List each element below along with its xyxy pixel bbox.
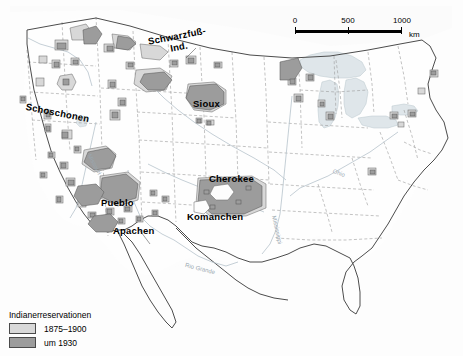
scale-tick-label-500: 500 xyxy=(341,16,354,25)
map-container: Schwarzfuß- Ind. Schoschonen Sioux Puebl… xyxy=(0,0,463,356)
map-label-komanchen: Komanchen xyxy=(187,211,243,222)
map-label-cherokee: Cherokee xyxy=(209,173,254,184)
scale-bar-line xyxy=(295,30,402,33)
legend-item-um-1930: um 1930 xyxy=(9,337,129,348)
legend-swatch-1875-1900 xyxy=(9,323,36,334)
legend-title: Indianerreservationen xyxy=(9,310,129,320)
legend: Indianerreservationen 1875–1900 um 1930 xyxy=(9,310,129,351)
map-label-pueblo: Pueblo xyxy=(101,197,134,208)
scale-bar: 0 500 1000 km xyxy=(293,16,433,42)
legend-item-1875-1900: 1875–1900 xyxy=(9,323,129,334)
scale-bar-numbers: 0 500 1000 xyxy=(293,16,433,28)
map-label-apachen: Apachen xyxy=(113,225,155,236)
legend-label-um-1930: um 1930 xyxy=(44,338,77,348)
legend-swatch-um-1930 xyxy=(9,337,36,348)
scale-tick-label-1000: 1000 xyxy=(393,16,411,25)
scale-tick-label-0: 0 xyxy=(293,16,297,25)
legend-label-1875-1900: 1875–1900 xyxy=(44,324,87,334)
scale-unit-label: km xyxy=(409,30,420,39)
map-label-sioux: Sioux xyxy=(193,98,220,109)
